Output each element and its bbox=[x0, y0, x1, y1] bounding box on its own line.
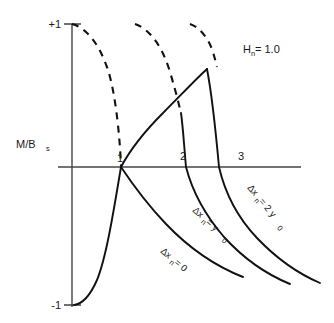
x-tick-label-1: 1 bbox=[117, 152, 123, 164]
curve-label-dxn-2y0: Δx n = 2 y 0 bbox=[243, 182, 289, 232]
rising-branch bbox=[74, 69, 207, 305]
dashed-curve-2 bbox=[135, 24, 181, 113]
dashed-curve-1 bbox=[72, 24, 121, 166]
curve-label-dxn-2y0-suffix: = 2 y bbox=[257, 196, 279, 219]
y-axis-label: M/B s bbox=[16, 138, 50, 153]
condition-annotation: H n = 1.0 bbox=[243, 43, 280, 58]
y-axis-label-subscript: s bbox=[46, 144, 50, 153]
y-tick-label-top: +1 bbox=[48, 18, 61, 30]
curve-label-dxn-2y0-suffix-subscript: 0 bbox=[275, 224, 285, 233]
curve-label-dxn-0: Δx n = 0 bbox=[157, 245, 190, 276]
descending-curve-dxn-2y0 bbox=[207, 69, 320, 283]
condition-symbol: H bbox=[243, 43, 251, 55]
condition-value: = 1.0 bbox=[255, 43, 280, 55]
y-tick-label-bottom: -1 bbox=[51, 299, 61, 311]
magnetization-plot: +1 -1 M/B s H n = 1.0 1 2 3 Δx n = 0 Δx … bbox=[0, 0, 334, 323]
x-tick-label-3: 3 bbox=[238, 150, 244, 162]
dashed-curve-3 bbox=[190, 24, 217, 67]
x-tick-label-2: 2 bbox=[180, 150, 186, 162]
curve-label-dxn-y0: Δx n = y 0 bbox=[189, 204, 233, 245]
descending-curve-dxn-y0 bbox=[181, 113, 290, 284]
figure-container: +1 -1 M/B s H n = 1.0 1 2 3 Δx n = 0 Δx … bbox=[0, 0, 334, 323]
y-axis-label-main: M/B bbox=[16, 138, 36, 150]
